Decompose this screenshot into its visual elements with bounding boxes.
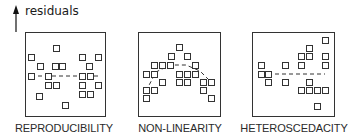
data-point-square-icon: [46, 83, 52, 89]
data-point-square-icon: [96, 83, 102, 89]
data-point-square-icon: [29, 55, 35, 61]
data-point-square-icon: [283, 63, 289, 69]
data-point-square-icon: [152, 88, 158, 94]
residuals-axis-arrow-icon: [13, 5, 19, 32]
data-point-square-icon: [193, 72, 199, 78]
data-point-square-icon: [96, 55, 102, 61]
data-point-square-icon: [144, 88, 150, 94]
data-point-square-icon: [323, 88, 329, 94]
data-point-square-icon: [323, 54, 329, 60]
data-point-square-icon: [323, 63, 329, 69]
data-point-square-icon: [307, 88, 313, 94]
data-point-square-icon: [299, 63, 305, 69]
data-point-square-icon: [209, 80, 215, 86]
data-point-square-icon: [185, 72, 191, 78]
data-point-square-icon: [60, 64, 66, 70]
data-point-square-icon: [168, 63, 174, 69]
data-point-square-icon: [29, 74, 35, 80]
data-point-square-icon: [88, 74, 94, 80]
data-point-square-icon: [80, 92, 86, 98]
data-point-square-icon: [169, 54, 175, 60]
data-point-square-icon: [152, 72, 158, 78]
panel-reproducibility: [26, 33, 106, 117]
data-point-square-icon: [37, 94, 43, 100]
data-point-square-icon: [307, 46, 313, 52]
panel-label-non-linearity: NON-LINEARITY: [138, 122, 222, 134]
data-point-square-icon: [201, 88, 207, 94]
data-point-square-icon: [283, 80, 289, 86]
data-point-square-icon: [152, 63, 158, 69]
panel-label-heteroscedacity: HETEROSCEDACITY: [240, 122, 347, 134]
data-point-square-icon: [177, 72, 183, 78]
data-point-square-icon: [54, 46, 60, 52]
data-point-square-icon: [259, 63, 265, 69]
data-point-square-icon: [80, 83, 86, 89]
data-point-square-icon: [266, 72, 272, 78]
residual-diagram: residuals REPRODUCIBILITY NON-LINEARITY …: [0, 0, 352, 138]
data-point-square-icon: [185, 80, 191, 86]
data-point-square-icon: [88, 92, 94, 98]
data-point-square-icon: [201, 80, 207, 86]
data-point-square-icon: [54, 83, 60, 89]
panel-label-reproducibility: REPRODUCIBILITY: [15, 122, 113, 134]
data-point-square-icon: [144, 96, 150, 102]
data-point-square-icon: [266, 80, 272, 86]
data-point-square-icon: [38, 64, 44, 70]
data-point-square-icon: [160, 80, 166, 86]
data-point-square-icon: [177, 45, 183, 51]
data-point-square-icon: [46, 74, 52, 80]
data-point-square-icon: [144, 72, 150, 78]
residuals-axis-label: residuals: [25, 4, 79, 18]
data-point-square-icon: [80, 55, 86, 61]
data-point-square-icon: [87, 64, 93, 70]
data-point-square-icon: [193, 63, 199, 69]
data-point-square-icon: [307, 80, 313, 86]
data-point-square-icon: [315, 104, 321, 110]
data-point-square-icon: [259, 72, 265, 78]
data-point-square-icon: [177, 80, 183, 86]
data-point-square-icon: [209, 96, 215, 102]
data-point-square-icon: [53, 64, 59, 70]
data-point-square-icon: [80, 74, 86, 80]
data-point-square-icon: [299, 88, 305, 94]
data-point-square-icon: [315, 88, 321, 94]
diagram-canvas: [0, 0, 352, 138]
panel-heteroscedacity: [253, 33, 335, 117]
panel-non-linearity: [139, 33, 221, 117]
data-point-square-icon: [160, 63, 166, 69]
data-point-square-icon: [307, 54, 313, 60]
panels: [26, 33, 335, 117]
data-point-square-icon: [299, 54, 305, 60]
data-point-square-icon: [323, 38, 329, 44]
data-point-square-icon: [63, 103, 69, 109]
data-point-square-icon: [185, 54, 191, 60]
